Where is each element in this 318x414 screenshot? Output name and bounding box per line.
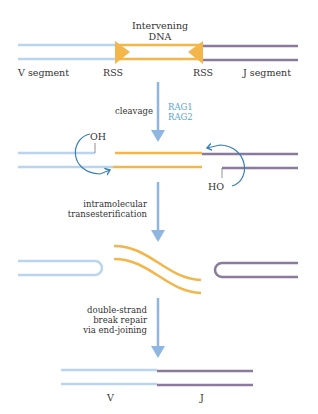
rag2-label: RAG2	[168, 112, 193, 122]
rss-right-label: RSS	[193, 67, 213, 78]
rss-left-label: RSS	[103, 67, 123, 78]
intervening-dna-label: Intervening DNA	[125, 20, 195, 42]
stage1-dna	[18, 41, 298, 64]
v-final-label: V	[107, 392, 114, 403]
step2-line1: intramolecular	[60, 199, 147, 209]
j-hairpin	[215, 263, 298, 277]
ho-label: HO	[208, 181, 224, 192]
v-segment-label: V segment	[18, 67, 69, 78]
arrow-repair-icon	[151, 298, 165, 358]
step3-line1: double-strand	[60, 305, 147, 315]
step3-line2: break repair	[60, 315, 147, 325]
curved-attack-arrow-right-icon	[207, 145, 245, 186]
vdj-recombination-diagram	[0, 0, 318, 414]
rag1-label: RAG1	[168, 102, 193, 112]
repair-label: double-strand break repair via end-joini…	[60, 305, 147, 335]
excised-strand-bottom	[114, 259, 201, 293]
intervening-label-line2: DNA	[125, 31, 195, 42]
j-segment-label: J segment	[243, 67, 291, 78]
stage3-hairpins	[18, 246, 298, 293]
arrow-cleavage-icon	[151, 82, 165, 142]
stage4-joined-dna	[61, 370, 253, 385]
arrow-transesterification-icon	[151, 182, 165, 242]
step2-line2: transesterification	[60, 209, 147, 219]
step3-line3: via end-joining	[60, 325, 147, 335]
oh-label: OH	[90, 131, 106, 142]
j-final-label: J	[200, 392, 204, 403]
cleavage-label: cleavage	[115, 106, 153, 116]
intervening-label-line1: Intervening	[125, 20, 195, 31]
v-hairpin	[18, 261, 102, 275]
transesterification-label: intramolecular transesterification	[60, 199, 147, 219]
